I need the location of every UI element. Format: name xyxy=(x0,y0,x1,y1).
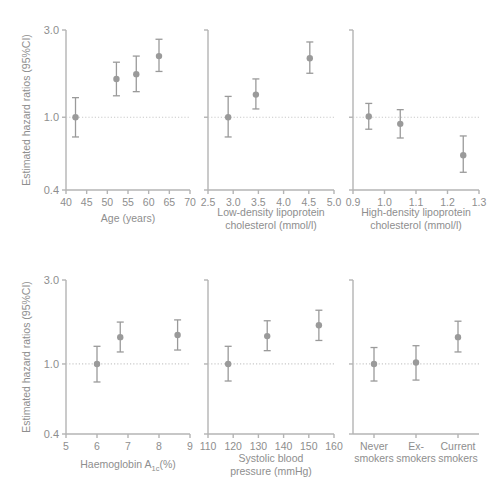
data-point-0 xyxy=(225,96,232,137)
x-tick-label: 8 xyxy=(156,440,162,452)
x-axis-title: Low-density lipoprotein xyxy=(217,206,325,218)
x-tick-label: 110 xyxy=(200,440,217,452)
data-point-0 xyxy=(94,346,101,382)
y-tick-label: 3.0 xyxy=(44,24,59,36)
x-tick-label: 120 xyxy=(224,440,242,452)
data-point-2 xyxy=(306,42,313,73)
data-point-1 xyxy=(113,62,120,96)
x-tick-label: 130 xyxy=(250,440,268,452)
x-tick-label: 65 xyxy=(163,196,175,208)
x-tick-label: 5.0 xyxy=(327,196,342,208)
data-point-2 xyxy=(174,320,181,350)
marker xyxy=(316,322,322,328)
marker xyxy=(371,361,377,367)
data-point-1 xyxy=(397,110,404,138)
x-axis-title: cholesterol (mmol/l) xyxy=(225,219,317,231)
category-label: smokers xyxy=(438,452,478,464)
data-point-0 xyxy=(365,103,372,129)
x-tick-label: 60 xyxy=(143,196,155,208)
x-axis-title: High-density lipoprotein xyxy=(361,206,471,218)
marker xyxy=(94,361,100,367)
x-tick-label: 50 xyxy=(101,196,113,208)
x-tick-label: 150 xyxy=(300,440,318,452)
data-point-1 xyxy=(117,322,124,352)
data-point-2 xyxy=(315,310,322,340)
category-label: smokers xyxy=(396,452,436,464)
panel-hdl: 0.91.01.11.21.3High-density lipoproteinc… xyxy=(345,8,492,236)
marker xyxy=(460,152,466,158)
x-tick-label: 6 xyxy=(94,440,100,452)
y-tick-label: 1.0 xyxy=(44,358,59,370)
data-point-1 xyxy=(413,346,420,380)
x-axis-title: Systolic blood xyxy=(239,452,304,464)
marker xyxy=(117,334,123,340)
marker xyxy=(307,55,313,61)
x-tick-label: 7 xyxy=(125,440,131,452)
marker xyxy=(133,71,139,77)
x-axis-title: pressure (mmHg) xyxy=(230,465,312,477)
panel-sbp: 110120130140150160Systolic bloodpressure… xyxy=(198,258,346,486)
x-tick-label: 140 xyxy=(275,440,293,452)
marker xyxy=(156,53,162,59)
category-label: Current xyxy=(440,440,475,452)
x-tick-label: 160 xyxy=(325,440,343,452)
marker xyxy=(455,334,461,340)
x-tick-label: 5 xyxy=(63,440,69,452)
data-point-1 xyxy=(264,321,271,351)
marker xyxy=(72,114,78,120)
marker xyxy=(253,91,259,97)
y-axis-label: Estimated hazard ratios (95%CI) xyxy=(20,281,32,433)
category-label: smokers xyxy=(354,452,394,464)
marker xyxy=(174,332,180,338)
x-tick-label: 70 xyxy=(184,196,196,208)
data-point-0 xyxy=(371,348,378,381)
panel-smoking: NeversmokersEx-smokersCurrentsmokers xyxy=(345,258,492,486)
x-tick-label: 2.5 xyxy=(201,196,216,208)
x-tick-label: 9 xyxy=(187,440,193,452)
marker xyxy=(413,359,419,365)
data-point-0 xyxy=(72,98,79,137)
y-tick-label: 1.0 xyxy=(44,111,59,123)
x-tick-label: 0.9 xyxy=(346,196,361,208)
x-axis-title: cholesterol (mmol/l) xyxy=(370,219,462,231)
data-point-2 xyxy=(133,56,140,92)
x-tick-label: 40 xyxy=(60,196,72,208)
marker xyxy=(225,361,231,367)
y-tick-label: 3.0 xyxy=(44,274,59,286)
x-axis-title: Haemoglobin A1c(%) xyxy=(80,458,175,473)
marker xyxy=(366,113,372,119)
marker xyxy=(225,114,231,120)
data-point-2 xyxy=(455,321,462,352)
x-axis-title: Age (years) xyxy=(101,212,155,224)
data-point-0 xyxy=(225,346,232,381)
y-tick-label: 0.4 xyxy=(44,184,59,196)
data-point-2 xyxy=(460,136,467,172)
marker xyxy=(113,76,119,82)
data-point-3 xyxy=(156,39,163,71)
category-label: Never xyxy=(360,440,389,452)
panel-hba1c: Estimated hazard ratios (95%CI)0.41.03.0… xyxy=(18,258,196,486)
x-tick-label: 55 xyxy=(122,196,134,208)
x-tick-label: 1.3 xyxy=(472,196,487,208)
category-label: Ex- xyxy=(408,440,424,452)
marker xyxy=(397,121,403,127)
y-axis-label: Estimated hazard ratios (95%CI) xyxy=(20,34,32,186)
data-point-1 xyxy=(252,79,259,109)
hazard-ratio-figure: Estimated hazard ratios (95%CI)0.41.03.0… xyxy=(0,0,492,489)
panel-age: Estimated hazard ratios (95%CI)0.41.03.0… xyxy=(18,8,196,236)
y-tick-label: 0.4 xyxy=(44,428,59,440)
marker xyxy=(264,333,270,339)
x-tick-label: 45 xyxy=(81,196,93,208)
panel-ldl: 2.53.03.54.04.55.0Low-density lipoprotei… xyxy=(198,8,346,236)
